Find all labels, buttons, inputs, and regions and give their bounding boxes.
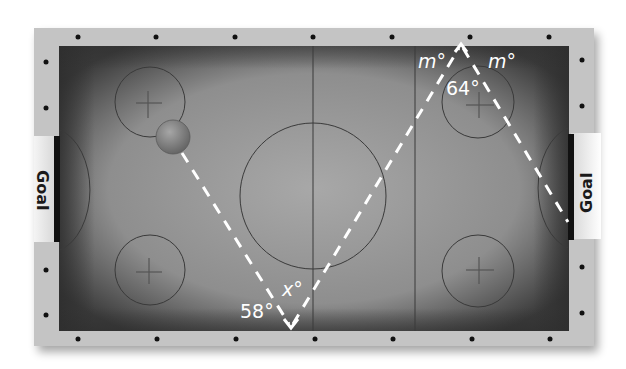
puck (156, 120, 190, 154)
goal-right-bar (568, 134, 574, 240)
angle-label-x: x° (281, 278, 303, 300)
angle-label-m-right: m° (488, 50, 516, 72)
goal-left-bar (54, 136, 60, 242)
angle-label-m-left: m° (418, 50, 446, 72)
angle-label-64: 64° (446, 77, 480, 99)
air-hockey-diagram: 58° x° m° m° 64° Goal Goal (0, 0, 626, 369)
goal-label-right: Goal (577, 173, 596, 213)
goal-label-left: Goal (33, 170, 52, 210)
angle-label-58: 58° (240, 300, 274, 322)
